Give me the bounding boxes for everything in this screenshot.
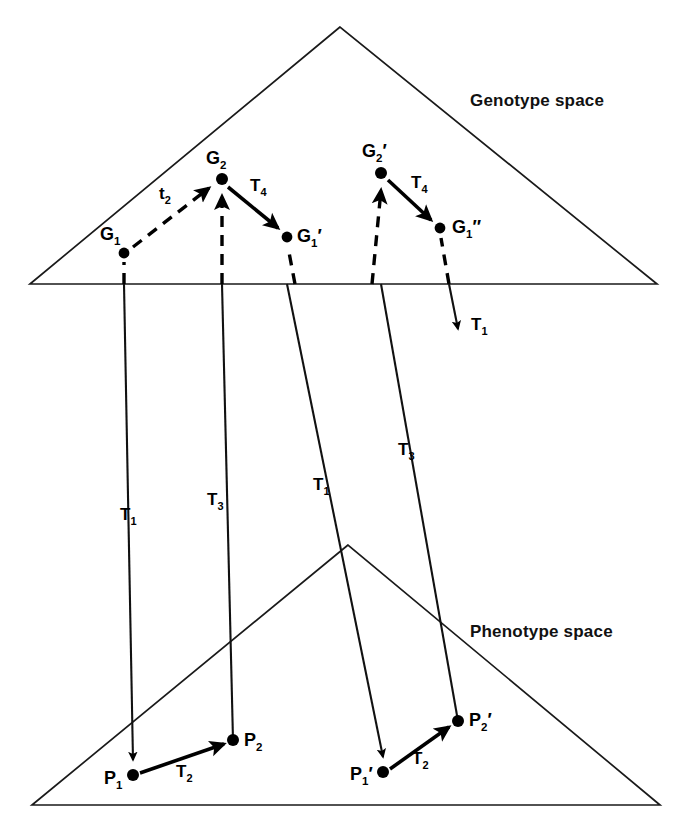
edge-label-T3-left: T3 xyxy=(207,490,224,512)
node-dot-P2[interactable] xyxy=(227,734,239,746)
node-label-P1: P1 xyxy=(104,768,123,791)
node-dot-P2p[interactable] xyxy=(452,715,464,727)
mapping-line-T1-mid xyxy=(287,284,383,757)
node-label-G2-prime: G2′ xyxy=(362,141,387,164)
edge-label-T1-left: T1 xyxy=(120,505,137,527)
edge-label-T4-right: T4 xyxy=(411,173,428,195)
node-dot-G1p[interactable] xyxy=(282,232,293,243)
phenotype-space-triangle xyxy=(32,545,660,805)
diagram-canvas: G1 G2 G1′ G2′ G1″ P1 P2 P1′ xyxy=(0,0,696,823)
edge-T1-right-arrow xyxy=(449,284,458,329)
genotype-space-label: Genotype space xyxy=(470,91,604,110)
mapping-line-T3-right xyxy=(381,284,458,721)
edge-labels: t2 T4 T4 T3 T3 T1 T1 T1 xyxy=(120,173,488,784)
edge-label-T2-left: T2 xyxy=(176,762,193,784)
node-dot-G2p[interactable] xyxy=(375,167,387,179)
arrow-T1-right xyxy=(449,284,458,329)
edge-t2 xyxy=(133,188,209,247)
node-label-G1-doubleprime: G1″ xyxy=(452,217,481,240)
node-label-G1-prime: G1′ xyxy=(297,226,322,249)
node-dot-P1p[interactable] xyxy=(377,766,389,778)
stub-G1p xyxy=(288,247,295,284)
phenotype-space-label: Phenotype space xyxy=(470,622,613,641)
edge-label-T4-left: T4 xyxy=(250,176,267,198)
node-label-P2-prime: P2′ xyxy=(469,710,492,733)
genotype-space-triangle xyxy=(30,27,657,284)
edge-label-t2: t2 xyxy=(159,184,171,206)
node-label-G2: G2 xyxy=(206,148,226,171)
node-label-P1-prime: P1′ xyxy=(350,764,373,787)
node-dot-G2[interactable] xyxy=(216,173,228,185)
node-labels: G1 G2 G1′ G2′ G1″ P1 P2 P1′ xyxy=(100,141,492,791)
node-label-P2: P2 xyxy=(244,730,262,753)
edge-label-T2-right: T2 xyxy=(412,749,429,771)
mapping-line-T3-left xyxy=(222,284,233,740)
stub-G2p-up xyxy=(372,190,381,284)
edge-label-T1-right: T1 xyxy=(471,315,488,337)
node-dot-P1[interactable] xyxy=(127,769,139,781)
space-titles: Genotype space Phenotype space xyxy=(470,91,613,641)
edge-label-T3-right: T3 xyxy=(398,440,415,462)
node-dot-G1[interactable] xyxy=(119,248,130,259)
stub-G1pp xyxy=(441,238,449,284)
node-label-G1: G1 xyxy=(100,224,121,247)
genotype-phenotype-diagram: G1 G2 G1′ G2′ G1″ P1 P2 P1′ xyxy=(0,0,696,823)
node-dot-G1pp[interactable] xyxy=(435,223,446,234)
